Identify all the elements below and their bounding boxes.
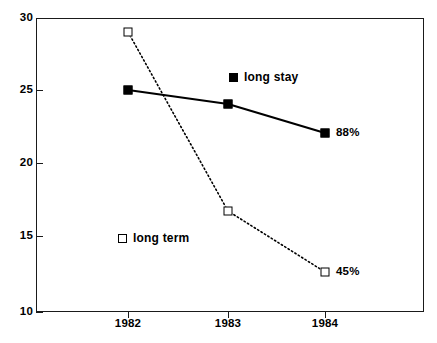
y-axis-label-25: 25 xyxy=(20,84,33,96)
annotation-long-stay-88: 88% xyxy=(336,127,360,139)
data-point-long-term-1984 xyxy=(321,268,330,277)
legend-label-long-term: long term xyxy=(133,232,189,244)
data-point-long-stay-1984 xyxy=(321,129,330,138)
y-axis-tick xyxy=(36,236,43,237)
y-axis-label-20: 20 xyxy=(20,157,33,169)
x-axis-label-1983: 1983 xyxy=(215,318,241,330)
legend-label-long-stay: long stay xyxy=(244,71,298,83)
plot-area xyxy=(36,18,424,312)
data-point-long-term-1982 xyxy=(124,28,133,37)
legend-entry-long-stay: long stay xyxy=(229,71,298,83)
y-axis-tick xyxy=(36,90,43,91)
data-point-long-stay-1982 xyxy=(124,86,133,95)
legend-entry-long-term: long term xyxy=(118,232,189,244)
y-axis-label-15: 15 xyxy=(20,230,33,242)
data-point-long-term-1983 xyxy=(224,207,233,216)
y-axis-tick xyxy=(36,18,43,19)
y-axis-label-30: 30 xyxy=(20,12,33,24)
y-axis-tick xyxy=(36,312,43,313)
data-point-long-stay-1983 xyxy=(224,100,233,109)
chart-figure: 30 25 20 15 10 1982 1983 1984 88% 45% lo… xyxy=(0,0,437,343)
y-axis-tick xyxy=(36,163,43,164)
x-axis-label-1982: 1982 xyxy=(115,318,141,330)
legend-marker-open-square-icon xyxy=(118,234,127,243)
annotation-long-term-45: 45% xyxy=(336,266,360,278)
legend-marker-filled-square-icon xyxy=(229,73,238,82)
y-axis-label-10: 10 xyxy=(20,306,33,318)
x-axis-label-1984: 1984 xyxy=(312,318,338,330)
